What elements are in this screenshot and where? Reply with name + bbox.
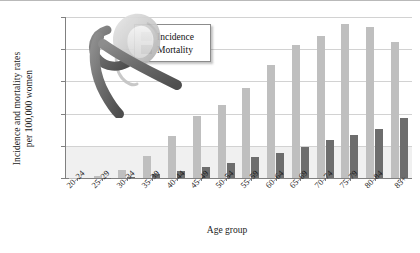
x-tick-wrap: 80–84	[362, 181, 387, 223]
chart-legend: IncidenceMortality	[134, 24, 211, 62]
bar-incidence	[292, 45, 300, 178]
bar-incidence	[242, 88, 250, 178]
x-tick-wrap: 20–24	[65, 181, 90, 223]
legend-label-incidence: Incidence	[157, 32, 194, 42]
y-axis-title: Incidence and mortality ratesper 100,000…	[12, 24, 35, 194]
bar-group	[65, 17, 90, 178]
x-tick-wrap: 70–74	[313, 181, 338, 223]
bar-group	[362, 17, 387, 178]
bar-mortality	[400, 118, 408, 178]
bar-group	[263, 17, 288, 178]
bar-group	[313, 17, 338, 178]
x-tick-wrap: 40–44	[164, 181, 189, 223]
bar-group	[338, 17, 363, 178]
bar-incidence	[366, 27, 374, 178]
y-axis-title-line1: Incidence and mortality rates	[12, 52, 22, 165]
plot-area: 0100200300400500	[65, 17, 412, 179]
x-tick-wrap: 50–54	[214, 181, 239, 223]
legend-item: Incidence	[141, 30, 204, 43]
legend-label-mortality: Mortality	[157, 45, 193, 55]
legend-swatch-mortality	[141, 45, 152, 54]
x-axis-title: Age group	[0, 225, 420, 235]
legend-item: Mortality	[141, 43, 204, 56]
chart-container: Incidence and mortality ratesper 100,000…	[0, 0, 420, 253]
bar-incidence	[267, 65, 275, 178]
bar-group	[288, 17, 313, 178]
bar-incidence	[193, 116, 201, 178]
bar-group	[90, 17, 115, 178]
x-axis-ticks: 20–2425–2930–3435–3940–4445–4950–5455–59…	[65, 181, 412, 223]
y-axis-title-line2: per 100,000 women	[23, 70, 33, 147]
bar-incidence	[391, 42, 399, 178]
bar-group	[387, 17, 412, 178]
bar-group	[214, 17, 239, 178]
legend-swatch-incidence	[141, 32, 152, 41]
bar-incidence	[218, 105, 226, 178]
x-tick-wrap: 60–64	[263, 181, 288, 223]
x-tick-wrap: 85+	[387, 181, 412, 223]
x-tick-wrap: 25–29	[90, 181, 115, 223]
bar-group	[238, 17, 263, 178]
x-tick-wrap: 65–69	[288, 181, 313, 223]
bar-incidence	[317, 36, 325, 178]
x-tick-wrap: 45–49	[189, 181, 214, 223]
x-tick-wrap: 30–34	[115, 181, 140, 223]
bars-layer	[65, 17, 412, 178]
x-tick-wrap: 55–59	[238, 181, 263, 223]
x-tick-wrap: 75–79	[338, 181, 363, 223]
bar-incidence	[341, 24, 349, 178]
x-tick-wrap: 35–39	[139, 181, 164, 223]
